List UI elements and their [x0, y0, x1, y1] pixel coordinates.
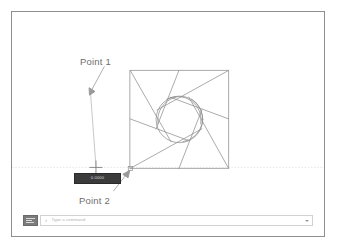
dynamic-input-tooltip[interactable]: 0.0000: [74, 173, 121, 184]
command-input[interactable]: [50, 216, 304, 224]
history-icon-line: [26, 218, 35, 219]
command-prompt-icon: ›: [43, 217, 50, 224]
point-2-arrow-head: [123, 170, 130, 177]
annotation-label-point-2: Point 2: [79, 195, 110, 206]
point-1-leader: [89, 66, 104, 166]
history-icon-line: [26, 222, 34, 223]
crosshair-cursor: [90, 160, 103, 173]
pinwheel-square-drawing[interactable]: [130, 70, 228, 168]
command-bar: ›: [12, 208, 324, 236]
blade-line: [130, 129, 202, 169]
point-1-arrow-shaft: [91, 66, 104, 91]
history-icon-line: [26, 220, 32, 221]
point-1-tail-line: [90, 90, 96, 166]
command-row: ›: [23, 215, 313, 225]
canvas-vector-layer: [12, 12, 324, 208]
drawing-canvas[interactable]: 0.0000 Point 1 Point 2: [12, 12, 324, 208]
chevron-down-icon[interactable]: [303, 216, 311, 224]
outer-square: [130, 70, 228, 168]
annotation-label-point-1: Point 1: [80, 56, 111, 67]
application-frame: 0.0000 Point 1 Point 2 ›: [11, 11, 325, 237]
command-input-wrapper[interactable]: ›: [40, 215, 313, 226]
inner-circle: [156, 96, 203, 143]
command-history-button[interactable]: [23, 215, 38, 226]
